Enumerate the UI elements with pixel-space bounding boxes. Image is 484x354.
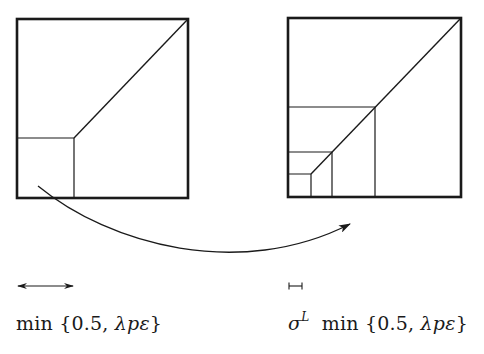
p-symbol: p [127,312,139,334]
right-panel [288,18,461,197]
right-inner-square-small [288,174,311,197]
min-operator: min [322,312,359,334]
lambda-symbol: λ [115,312,127,334]
p-symbol: p [433,312,445,334]
lambda-symbol: λ [421,312,433,334]
left-scale-label: min {0.5, λpε} [16,312,162,334]
left-diagonal [74,19,188,138]
right-scale-label: σL min {0.5, λpε} [288,312,468,334]
epsilon-symbol: ε [139,312,149,334]
min-operator: min [16,312,53,334]
left-inner-square [17,138,74,198]
left-panel [17,19,188,198]
right-scale-bar [289,283,302,290]
right-diagonal [311,18,461,174]
set-close: } [150,312,162,334]
set-close: } [456,312,468,334]
epsilon-symbol: ε [445,312,455,334]
superscript-L: L [301,310,309,324]
sigma-symbol: σ [288,312,301,334]
set-open: {0.5, [365,312,421,334]
scaling-diagram [0,0,484,354]
set-open: {0.5, [59,312,115,334]
